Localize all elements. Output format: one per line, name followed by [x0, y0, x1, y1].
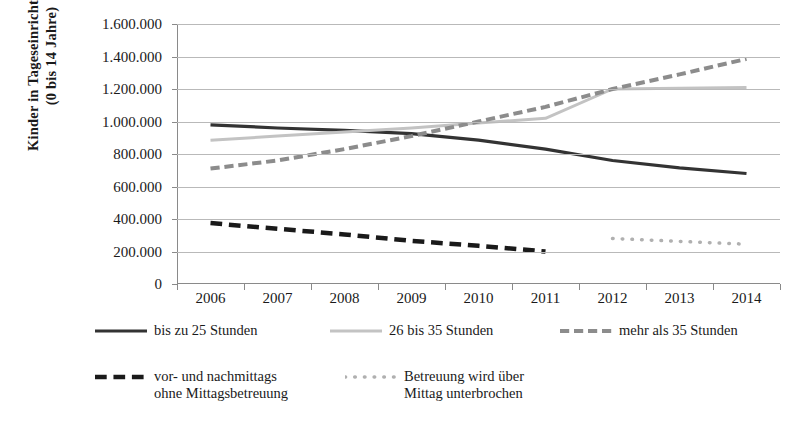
chart-root: Kinder in Tageseinrichtungen (0 bis 14 J… — [0, 0, 805, 441]
legend-item[interactable]: Betreuung wird überMittag unterbrochen — [345, 368, 524, 402]
y-axis-tick-label: 1.600.000 — [102, 17, 162, 32]
gridline — [177, 219, 780, 220]
gridline — [177, 252, 780, 253]
x-axis-tick — [244, 284, 245, 290]
gridline — [177, 154, 780, 155]
gridline — [177, 57, 780, 58]
solid-line-swatch — [95, 322, 147, 339]
y-axis-tick-labels: 0200.000400.000600.000800.0001.000.0001.… — [0, 24, 170, 284]
x-axis-tick-labels: 200620072008200920102011201220132014 — [177, 290, 780, 310]
x-axis-tick — [780, 284, 781, 290]
y-axis-tick-label: 0 — [155, 277, 163, 292]
x-axis-tick — [445, 284, 446, 290]
x-axis-tick-label: 2007 — [263, 290, 293, 306]
x-axis-tick — [579, 284, 580, 290]
y-axis-tick-label: 600.000 — [113, 179, 162, 194]
x-axis-tick — [646, 284, 647, 290]
x-axis-tick-label: 2014 — [732, 290, 762, 306]
series-line-2 — [211, 87, 747, 140]
gridline — [177, 122, 780, 123]
x-axis-tick — [713, 284, 714, 290]
legend-item[interactable]: bis zu 25 Stunden — [95, 322, 258, 339]
x-axis-tick-label: 2011 — [531, 290, 560, 306]
y-axis-tick — [172, 252, 177, 253]
dashed-line-swatch — [560, 322, 612, 339]
legend-label-line1: Betreuung wird über — [404, 368, 524, 385]
y-axis-tick — [172, 154, 177, 155]
y-axis-tick-label: 200.000 — [113, 244, 162, 259]
legend-label: Betreuung wird überMittag unterbrochen — [404, 368, 524, 402]
x-axis-tick — [378, 284, 379, 290]
y-axis-tick — [172, 24, 177, 25]
solid-line-swatch — [330, 322, 382, 339]
x-axis-tick-label: 2012 — [598, 290, 628, 306]
y-axis-tick-label: 800.000 — [113, 147, 162, 162]
series-line-4 — [211, 223, 546, 251]
series-line-1 — [211, 125, 747, 174]
series-line-3 — [211, 59, 747, 169]
legend-row-secondary: vor- und nachmittagsohne Mittagsbetreuun… — [0, 368, 805, 414]
y-axis-tick-label: 400.000 — [113, 212, 162, 227]
x-axis-tick-label: 2008 — [330, 290, 360, 306]
dotted-line-swatch — [345, 368, 397, 385]
y-axis-tick-label: 1.000.000 — [102, 114, 162, 129]
legend-label: bis zu 25 Stunden — [154, 322, 258, 339]
y-axis-tick — [172, 57, 177, 58]
legend-label: vor- und nachmittagsohne Mittagsbetreuun… — [154, 368, 288, 402]
chart-legend: bis zu 25 Stunden26 bis 35 Stundenmehr a… — [0, 322, 805, 414]
x-axis-tick — [311, 284, 312, 290]
legend-label: 26 bis 35 Stunden — [389, 322, 493, 339]
legend-label-line2: Mittag unterbrochen — [404, 385, 524, 402]
y-axis-tick — [172, 122, 177, 123]
x-axis-tick-label: 2009 — [397, 290, 427, 306]
y-axis-tick-label: 1.400.000 — [102, 49, 162, 64]
y-axis-tick — [172, 187, 177, 188]
x-axis-tick-label: 2013 — [665, 290, 695, 306]
y-axis-tick-label: 1.200.000 — [102, 82, 162, 97]
gridline — [177, 89, 780, 90]
x-axis-tick — [177, 284, 178, 290]
legend-row-primary: bis zu 25 Stunden26 bis 35 Stundenmehr a… — [0, 322, 805, 352]
legend-item[interactable]: vor- und nachmittagsohne Mittagsbetreuun… — [95, 368, 288, 402]
legend-label-line1: vor- und nachmittags — [154, 368, 288, 385]
plot-area — [177, 24, 780, 284]
series-line-5 — [613, 239, 747, 245]
x-axis-tick-label: 2006 — [196, 290, 226, 306]
legend-label-line2: ohne Mittagsbetreuung — [154, 385, 288, 402]
y-axis-tick — [172, 219, 177, 220]
y-axis-tick — [172, 89, 177, 90]
thick-dashed-line-swatch — [95, 368, 147, 385]
x-axis-tick — [512, 284, 513, 290]
legend-item[interactable]: 26 bis 35 Stunden — [330, 322, 493, 339]
legend-item[interactable]: mehr als 35 Stunden — [560, 322, 738, 339]
legend-label: mehr als 35 Stunden — [619, 322, 738, 339]
gridline — [177, 24, 780, 25]
x-axis-tick-label: 2010 — [464, 290, 494, 306]
gridline — [177, 187, 780, 188]
